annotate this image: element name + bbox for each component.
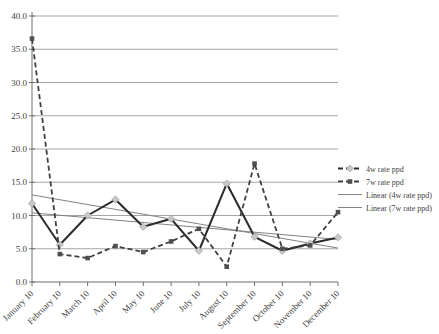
marker-square-7w rate ppd-April 10 (113, 244, 118, 249)
marker-square-7w rate ppd-June 10 (169, 239, 174, 244)
y-axis-label-40.0: 40.0 (11, 11, 27, 21)
marker-square-7w rate ppd-February 10 (58, 252, 63, 257)
marker-square-7w rate ppd-August 10 (224, 264, 229, 269)
marker-square-7w rate ppd-November 10 (308, 243, 313, 248)
line-chart-canvas: 0.05.010.015.020.025.030.035.040.0Januar… (0, 0, 439, 334)
y-axis-label-15.0: 15.0 (11, 177, 27, 187)
marker-square-7w rate ppd-March 10 (85, 256, 90, 261)
y-axis-label-0.0: 0.0 (16, 277, 28, 287)
y-axis-label-35.0: 35.0 (11, 44, 27, 54)
marker-square-7w rate ppd-July 10 (197, 227, 202, 232)
legend-marker-square (348, 179, 353, 184)
legend-label-Linear (7w rate ppd): Linear (7w rate ppd) (366, 204, 432, 213)
marker-square-7w rate ppd-January 10 (30, 36, 35, 41)
y-axis-label-10.0: 10.0 (11, 211, 27, 221)
y-axis-label-20.0: 20.0 (11, 144, 27, 154)
marker-square-7w rate ppd-September 10 (252, 161, 257, 166)
legend-label-4w rate ppd: 4w rate ppd (366, 165, 404, 174)
marker-square-7w rate ppd-May 10 (141, 250, 146, 255)
legend-label-7w rate ppd: 7w rate ppd (366, 178, 404, 187)
marker-square-7w rate ppd-October 10 (280, 246, 285, 251)
legend-label-Linear (4w rate ppd): Linear (4w rate ppd) (366, 191, 432, 200)
marker-square-7w rate ppd-December 10 (336, 210, 341, 215)
y-axis-label-25.0: 25.0 (11, 111, 27, 121)
y-axis-label-5.0: 5.0 (16, 244, 28, 254)
chart: 0.05.010.015.020.025.030.035.040.0Januar… (0, 0, 439, 334)
y-axis-label-30.0: 30.0 (11, 78, 27, 88)
